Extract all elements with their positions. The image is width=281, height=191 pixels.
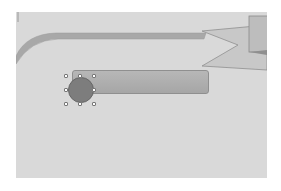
resize-handle-s[interactable] xyxy=(78,102,82,106)
selection-box xyxy=(66,76,94,104)
right-rectangle-shape[interactable] xyxy=(249,16,267,52)
resize-handle-nw[interactable] xyxy=(64,74,68,78)
rotation-handle[interactable] xyxy=(16,12,20,22)
resize-handle-e[interactable] xyxy=(92,88,96,92)
resize-handle-n[interactable] xyxy=(78,74,82,78)
top-band-shape[interactable] xyxy=(16,33,206,64)
resize-handle-se[interactable] xyxy=(92,102,96,106)
resize-handle-ne[interactable] xyxy=(92,74,96,78)
resize-handle-sw[interactable] xyxy=(64,102,68,106)
slide-canvas[interactable] xyxy=(16,12,267,178)
canvas-shapes xyxy=(16,12,267,178)
resize-handle-w[interactable] xyxy=(64,88,68,92)
